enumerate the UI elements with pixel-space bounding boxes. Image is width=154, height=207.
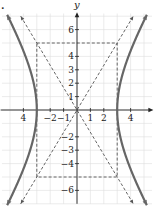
x-tick-label: −2 — [44, 113, 57, 123]
y-axis-arrow-icon — [75, 12, 80, 17]
x-tick-label: 4 — [21, 113, 27, 123]
y-tick-label: −6 — [61, 185, 75, 195]
x-tick-label: −1 — [57, 113, 70, 123]
hyperbola-chart: xy 4−2−112464321−2−3−4−6 — [0, 0, 154, 207]
x-tick-label: 4 — [128, 113, 134, 123]
y-tick-label: 4 — [68, 51, 74, 61]
y-tick-label: 2 — [68, 78, 74, 88]
y-tick-label: 1 — [68, 92, 74, 102]
y-tick-label: 3 — [68, 65, 74, 75]
y-axis-label: y — [73, 0, 80, 10]
y-tick-label: −2 — [61, 132, 74, 142]
y-tick-label: −3 — [61, 145, 75, 155]
x-tick-label: 2 — [101, 113, 107, 123]
y-tick-label: −4 — [61, 159, 75, 169]
y-tick-label: 6 — [68, 25, 74, 35]
x-axis-arrow-icon — [148, 108, 153, 113]
x-tick-label: 1 — [88, 113, 94, 123]
